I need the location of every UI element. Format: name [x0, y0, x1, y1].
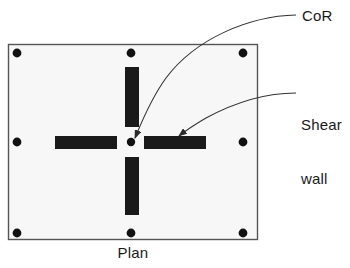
shear-wall-plan-figure: CoR Shear wall Plan	[0, 0, 350, 268]
column-dot	[13, 229, 22, 238]
label-shear-wall: Shear wall	[301, 80, 342, 224]
plan-drawing	[0, 0, 350, 268]
center-of-rigidity-point	[127, 138, 135, 146]
label-center-of-rigidity: CoR	[302, 7, 333, 25]
column-dot	[239, 138, 248, 147]
column-dot	[127, 49, 136, 58]
shear-wall-north	[125, 67, 139, 127]
column-dot	[13, 138, 22, 147]
label-shear-wall-line2: wall	[301, 170, 342, 188]
column-dot	[127, 229, 136, 238]
column-dot	[239, 49, 248, 58]
column-dot	[13, 49, 22, 58]
figure-caption: Plan	[0, 244, 266, 262]
label-shear-wall-line1: Shear	[301, 116, 342, 134]
shear-wall-south	[125, 157, 139, 215]
shear-wall-east	[144, 136, 206, 149]
shear-wall-west	[55, 136, 117, 149]
column-dot	[239, 229, 248, 238]
